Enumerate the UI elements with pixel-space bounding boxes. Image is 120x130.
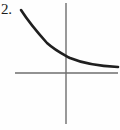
- problem-number-label: 2.: [1, 0, 12, 19]
- figure-container: 2.: [0, 0, 120, 130]
- graph-canvas: [0, 0, 120, 130]
